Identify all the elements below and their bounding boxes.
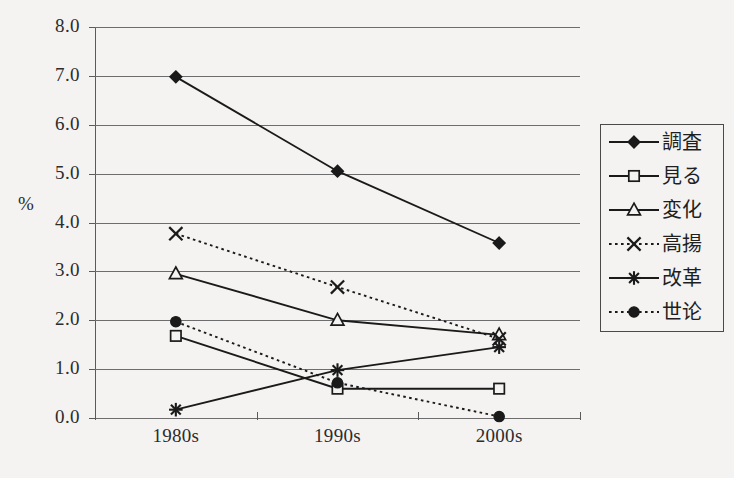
plot-area: [95, 27, 580, 418]
legend-item: 調査: [601, 125, 723, 159]
x-axis-tick: [580, 412, 581, 420]
legend-marker-asterisk: [607, 268, 661, 288]
gridline: [95, 320, 580, 321]
legend-marker-open-triangle: [607, 200, 661, 220]
legend-item-label: 変化: [662, 200, 702, 220]
gridline: [95, 27, 580, 28]
gridline: [95, 125, 580, 126]
y-axis-tick-label: 1.0: [18, 357, 80, 379]
gridline: [95, 223, 580, 224]
gridline: [95, 369, 580, 370]
x-axis-tick: [418, 412, 419, 420]
x-axis-tick-label: 2000s: [439, 425, 559, 447]
x-axis-tick: [95, 412, 96, 420]
y-axis-tick-label: 0.0: [18, 406, 80, 428]
legend-item: 改革: [601, 261, 723, 295]
gridline: [95, 174, 580, 175]
legend-marker-glyph: [629, 307, 639, 317]
legend-item-label: 見る: [662, 166, 702, 186]
y-axis-tick-label: 3.0: [18, 259, 80, 281]
legend-marker-filled-circle: [607, 302, 661, 322]
legend-item: 見る: [601, 159, 723, 193]
chart-figure: % 0.01.02.03.04.05.06.07.08.0 1980s1990s…: [0, 0, 734, 478]
y-axis-tick-label: 4.0: [18, 211, 80, 233]
legend-item-label: 調査: [662, 132, 702, 152]
y-axis-tick-label: 2.0: [18, 308, 80, 330]
legend-marker-glyph: [628, 203, 641, 215]
x-axis-tick: [257, 412, 258, 420]
legend-marker-open-square: [607, 166, 661, 186]
gridline: [95, 271, 580, 272]
legend-marker-glyph: [628, 136, 640, 148]
legend-marker-glyph: [629, 171, 639, 181]
x-axis-tick-label: 1990s: [278, 425, 398, 447]
y-axis-tick-label: 6.0: [18, 113, 80, 135]
legend-item-label: 改革: [662, 268, 702, 288]
gridline: [95, 418, 580, 419]
gridline: [95, 76, 580, 77]
x-axis-tick-label: 1980s: [116, 425, 236, 447]
legend-item: 世论: [601, 295, 723, 329]
legend-item-label: 高揚: [662, 234, 702, 254]
legend-item: 高揚: [601, 227, 723, 261]
legend-item-label: 世论: [662, 302, 702, 322]
legend-item: 変化: [601, 193, 723, 227]
chart-legend: 調査見る変化高揚改革世论: [600, 124, 724, 332]
legend-marker-glyph: [627, 271, 641, 285]
y-axis-tick-label: 8.0: [18, 15, 80, 37]
y-axis-tick-label: 5.0: [18, 162, 80, 184]
legend-marker-cross-x: [607, 234, 661, 254]
legend-marker-filled-diamond: [607, 132, 661, 152]
y-axis-tick-label: 7.0: [18, 64, 80, 86]
